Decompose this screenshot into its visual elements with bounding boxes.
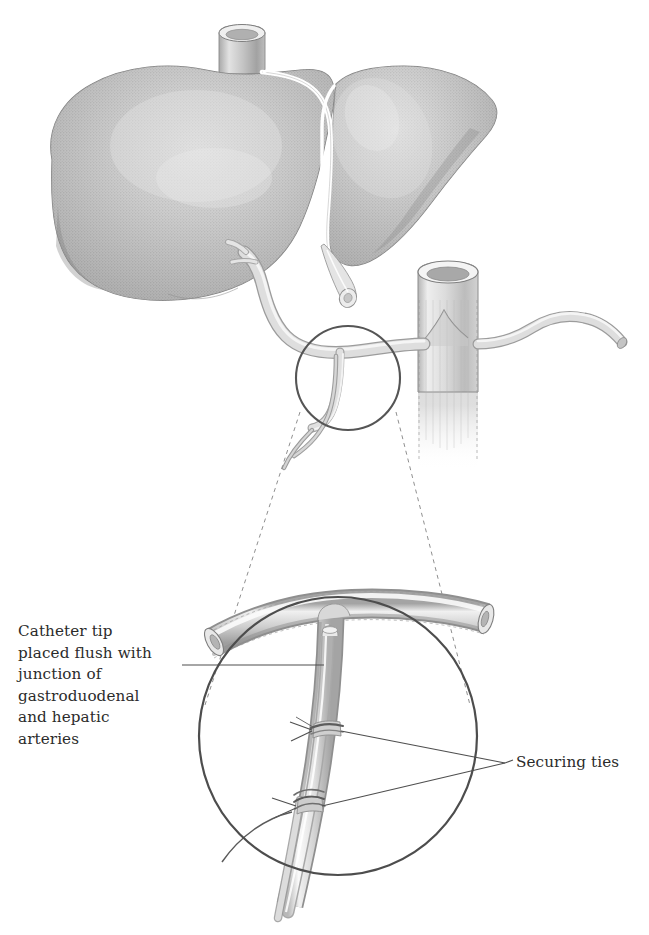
label-securing-ties: Securing ties	[516, 752, 646, 774]
leader-stub	[505, 760, 513, 763]
leader-branch-lower-tie	[322, 763, 505, 806]
leader-line-securing-ties	[322, 731, 513, 806]
leader-branch-upper-tie	[341, 731, 505, 763]
medical-illustration-figure: Catheter tip placed flush with junction …	[0, 0, 649, 935]
leader-lines-layer	[0, 0, 649, 935]
label-catheter-tip: Catheter tip placed flush with junction …	[18, 621, 190, 751]
